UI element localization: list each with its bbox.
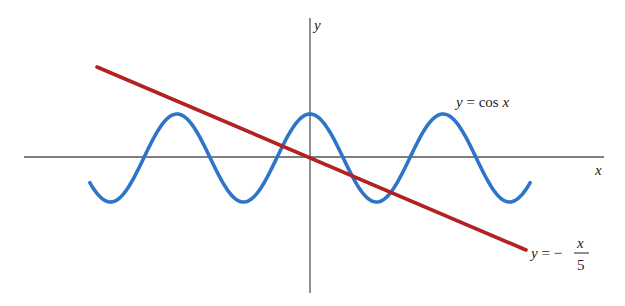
x-axis-label: x	[594, 162, 602, 178]
chart-canvas: y x y = cos x y = − x 5	[0, 0, 625, 306]
svg-text:y = −: y = −	[529, 245, 562, 261]
fraction-numerator: x	[576, 235, 584, 251]
y-axis-label: y	[312, 17, 321, 33]
line-label: y = − x 5	[529, 235, 589, 273]
cos-label: y = cos x	[454, 94, 509, 110]
fraction-denominator: 5	[577, 257, 585, 273]
